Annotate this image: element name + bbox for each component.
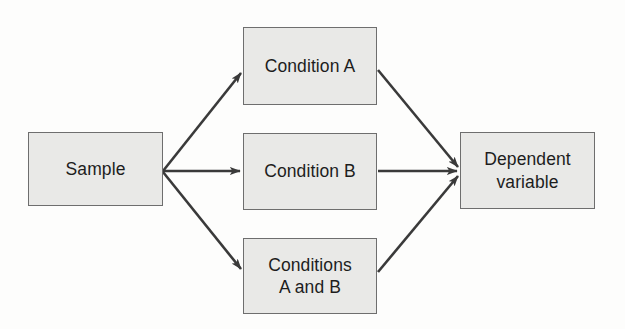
edge-sample-to-conditions-ab	[163, 172, 241, 269]
node-conditions-a-and-b: Conditions A and B	[243, 238, 377, 314]
node-condition-a: Condition A	[243, 27, 377, 105]
diagram-canvas: Sample Condition A Condition B Condition…	[0, 0, 625, 329]
node-condition-b-label: Condition B	[260, 160, 360, 182]
node-condition-a-label: Condition A	[261, 55, 360, 77]
edge-sample-to-condition-a	[163, 73, 241, 171]
edge-condition-a-to-dependent-variable	[378, 70, 458, 167]
edge-conditions-ab-to-dependent-variable	[378, 176, 458, 272]
node-sample-label: Sample	[62, 158, 130, 180]
node-dependent-variable: Dependent variable	[460, 132, 595, 209]
node-sample: Sample	[28, 132, 163, 206]
node-conditions-a-and-b-label: Conditions A and B	[264, 254, 356, 299]
node-condition-b: Condition B	[243, 133, 377, 210]
node-dependent-variable-label: Dependent variable	[480, 148, 575, 193]
